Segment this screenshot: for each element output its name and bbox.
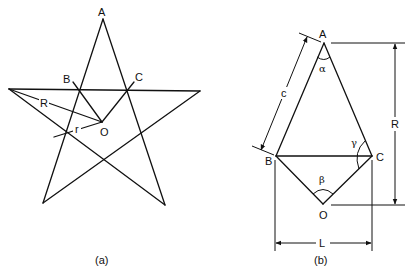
label-a-b: B — [63, 73, 70, 85]
label-angle-beta: β — [319, 174, 325, 185]
line-c-to-o — [102, 82, 134, 122]
edge-c-o — [323, 156, 372, 204]
label-a-o: O — [100, 126, 109, 138]
line-b-to-o — [73, 82, 102, 122]
c-extension-bottom — [252, 146, 274, 155]
figure-a-pentagram: A B C O R r (a) — [9, 6, 200, 266]
caption-a: (a) — [95, 254, 108, 266]
label-base-L: L — [319, 237, 325, 249]
label-a-R: R — [40, 97, 48, 109]
label-side-c: c — [281, 87, 287, 99]
label-a-apex: A — [98, 6, 106, 18]
label-a-r: r — [75, 123, 79, 135]
star-edge-left-to-bottom-right — [9, 89, 165, 205]
star-edge-left-to-right — [9, 89, 200, 91]
label-a-c: C — [135, 71, 143, 83]
star-edge-a-to-bottom-right — [103, 19, 165, 205]
circumradius-line-R — [9, 89, 102, 122]
edge-b-o — [276, 156, 323, 204]
star-edge-right-to-bottom-left — [43, 91, 200, 203]
label-b-b: B — [265, 155, 272, 167]
angle-arc-beta — [313, 190, 333, 195]
diagram-canvas: A B C O R r (a) A B — [0, 0, 413, 279]
c-extension-top — [299, 33, 321, 42]
label-height-R: R — [391, 118, 399, 130]
label-angle-gamma: γ — [351, 137, 357, 148]
label-b-a: A — [319, 28, 327, 40]
caption-b: (b) — [314, 254, 327, 266]
angle-arc-alpha — [317, 57, 330, 60]
label-b-o: O — [319, 209, 328, 221]
figure-b-kite: A B C O c R L α β γ (b) — [252, 28, 405, 266]
label-b-c: C — [376, 151, 384, 163]
edge-a-b — [276, 43, 324, 156]
edge-a-c — [324, 43, 372, 156]
label-angle-alpha: α — [319, 63, 326, 74]
